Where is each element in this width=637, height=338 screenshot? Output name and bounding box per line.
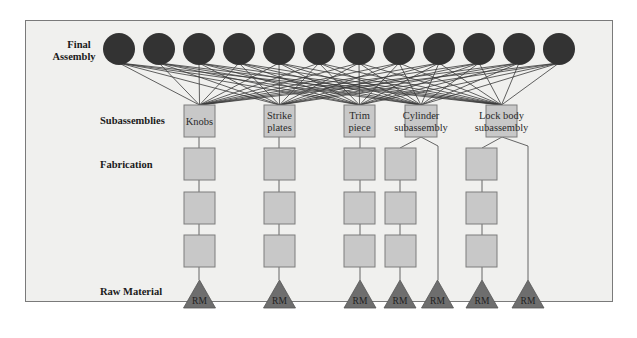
svg-text:Lock body: Lock body	[479, 110, 525, 121]
fabrication-step	[264, 148, 295, 180]
fabrication-step	[466, 235, 497, 267]
final-assembly-node	[183, 33, 215, 65]
fabrication-step	[344, 148, 375, 180]
final-assembly-node	[223, 33, 255, 65]
final-assembly-node	[463, 33, 495, 65]
level-label-subassemblies: Subassemblies	[100, 115, 165, 126]
fabrication-step	[344, 235, 375, 267]
fabrication-step	[466, 148, 497, 180]
final-assembly-node	[503, 33, 535, 65]
fabrication-step	[466, 192, 497, 224]
fabrication-step	[264, 235, 295, 267]
fabrication-step	[184, 148, 215, 180]
svg-text:RM: RM	[393, 296, 408, 306]
fabrication-step	[264, 192, 295, 224]
final-assembly-node	[423, 33, 455, 65]
svg-text:subassembly: subassembly	[475, 122, 529, 133]
final-assembly-node	[343, 33, 375, 65]
fabrication-step	[184, 192, 215, 224]
subassembly-trim-piece: Trim piece	[344, 105, 375, 137]
level-label-fabrication: Fabrication	[100, 159, 153, 170]
level-label-final-assembly-1: Final	[67, 39, 90, 50]
svg-text:Trim: Trim	[349, 110, 370, 121]
fabrication-step	[184, 235, 215, 267]
fabrication-step	[344, 192, 375, 224]
final-assembly-node	[103, 33, 135, 65]
svg-text:Cylinder: Cylinder	[403, 110, 440, 121]
svg-text:RM: RM	[475, 296, 490, 306]
final-assembly-node	[543, 33, 575, 65]
subassembly-knobs: Knobs	[184, 105, 215, 137]
fabrication-step	[385, 148, 416, 180]
svg-text:Strike: Strike	[267, 110, 292, 121]
level-label-final-assembly-2: Assembly	[52, 51, 96, 62]
fabrication-step	[385, 192, 416, 224]
final-assembly-node	[383, 33, 415, 65]
final-assembly-node	[143, 33, 175, 65]
svg-text:RM: RM	[192, 296, 207, 306]
svg-text:subassembly: subassembly	[394, 122, 448, 133]
svg-text:piece: piece	[348, 122, 370, 133]
svg-text:RM: RM	[272, 296, 287, 306]
final-assembly-node	[303, 33, 335, 65]
fabrication-step	[385, 235, 416, 267]
svg-text:plates: plates	[267, 122, 292, 133]
final-assembly-node	[263, 33, 295, 65]
subassembly-strike-plates: Strike plates	[264, 105, 295, 137]
svg-text:RM: RM	[430, 296, 445, 306]
bill-of-materials-diagram: Final Assembly Subassemblies Fabrication…	[0, 0, 637, 338]
svg-text:Knobs: Knobs	[186, 116, 213, 127]
svg-text:RM: RM	[521, 296, 536, 306]
level-label-raw-material: Raw Material	[100, 286, 162, 297]
svg-text:RM: RM	[353, 296, 368, 306]
